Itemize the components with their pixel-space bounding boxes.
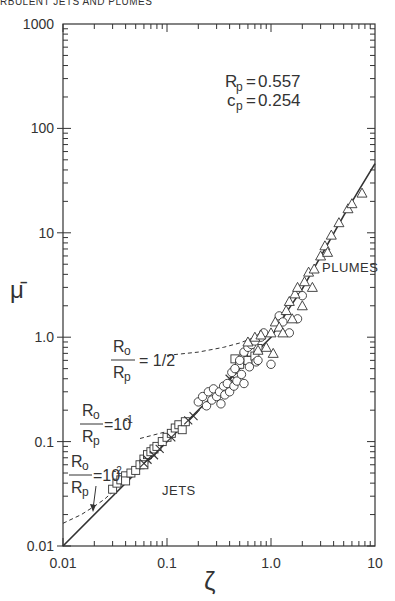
svg-text:0.254: 0.254 [258,91,301,110]
svg-text:c: c [227,91,236,110]
circle-marker [298,291,306,299]
y-tick-label: 100 [31,120,55,136]
parameter-cp: c p = 0.254 [227,91,301,113]
svg-text:o: o [93,408,100,422]
log-log-chart: 0.010.11.0100.010.11.0101001000 μ̄ ζ R p… [0,0,395,601]
triangle-marker [297,301,307,310]
svg-text:p: p [93,434,100,448]
triangle-marker [261,342,271,351]
x-tick-label: 10 [367,555,383,571]
svg-text:o: o [124,344,131,358]
circle-marker [237,370,245,378]
y-tick-label: 0.01 [27,538,54,554]
plumes-label: PLUMES [322,260,378,275]
svg-text:p: p [236,80,243,94]
circle-marker [240,379,248,387]
x-tick-label: 0.1 [157,555,177,571]
triangle-marker [309,264,319,273]
y-tick-label: 1.0 [35,329,55,345]
y-tick-label: 0.1 [35,434,55,450]
x-tick-label: 1.0 [261,555,281,571]
svg-text:p: p [124,370,131,384]
svg-text:-2: -2 [113,465,122,476]
svg-text:R: R [113,338,125,355]
circle-marker [254,356,262,364]
svg-text:R: R [113,364,125,381]
square-marker [140,461,148,469]
square-marker [178,426,186,434]
jets-label: JETS [162,483,196,498]
y-tick-label: 1000 [23,16,54,32]
svg-text:0.557: 0.557 [258,72,301,91]
svg-text:R: R [71,453,83,470]
cross-marker [190,412,198,420]
circle-marker [267,360,275,368]
circle-marker [235,356,243,364]
svg-text:-1: -1 [124,414,133,425]
x-axis-label: ζ [204,566,215,596]
square-marker [181,418,189,426]
svg-text:R: R [82,402,94,419]
y-tick-label: 10 [38,225,54,241]
y-axis-label: μ̄ [10,276,28,303]
svg-text:=: = [246,91,256,110]
data-markers [109,188,367,493]
svg-text:p: p [82,485,89,499]
svg-text:= 1/2: = 1/2 [139,352,175,369]
annotations: μ̄ ζ R p = 0.557 c p = 0.254 PLUMES JETS… [10,72,378,596]
svg-text:=: = [246,72,256,91]
circle-marker [217,400,225,408]
curve-label-half: R o R p = 1/2 [111,338,175,384]
svg-text:R: R [71,479,83,496]
svg-text:p: p [236,99,243,113]
svg-text:R: R [82,428,94,445]
x-tick-label: 0.01 [49,555,76,571]
triangle-marker [347,199,357,208]
svg-text:o: o [82,459,89,473]
curve-label-hundredth: R o R p =10 -2 [69,453,122,512]
square-marker [122,477,130,485]
curve-label-tenth: R o R p =10 -1 [80,402,133,448]
